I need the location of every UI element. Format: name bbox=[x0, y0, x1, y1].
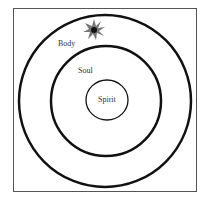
spirit-label: Spirit bbox=[98, 95, 117, 104]
soul-label: Soul bbox=[78, 66, 93, 75]
concentric-diagram: Body Soul Spirit bbox=[0, 0, 211, 206]
body-label: Body bbox=[58, 39, 75, 48]
starburst-icon bbox=[83, 19, 105, 40]
